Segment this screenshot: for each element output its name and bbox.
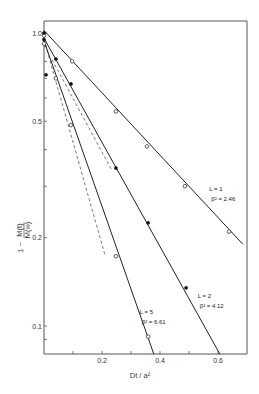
beta-label: β² = 6.61	[142, 319, 167, 325]
data-point	[54, 57, 57, 60]
data-point	[114, 254, 118, 258]
data-point	[69, 123, 73, 127]
beta-label: β² = 2.46	[211, 196, 236, 202]
x-axis-title: Dt / a²	[130, 371, 151, 380]
series-line	[44, 41, 154, 355]
x-ticks: 0.20.40.6	[73, 351, 223, 364]
data-point	[145, 145, 149, 149]
data-point	[227, 230, 231, 234]
x-tick-label: 0.2	[97, 357, 107, 364]
series-l2	[42, 38, 220, 354]
series-l1	[42, 30, 243, 244]
data-point	[183, 184, 187, 188]
data-point	[44, 73, 47, 76]
chart: 1.00.50.20.1 0.20.40.6 L = 1β² = 2.46L =…	[0, 0, 259, 394]
y-tick-label: 0.1	[32, 323, 42, 330]
y-tick-label: 1.0	[32, 30, 42, 37]
series-label: L = 5	[140, 309, 154, 315]
series-label: L = 1	[209, 186, 223, 192]
y-axis-title: 1 − M(t) M(∞)	[15, 221, 32, 252]
data-point	[54, 77, 58, 81]
data-point	[42, 42, 46, 46]
data-point	[69, 82, 72, 85]
data-point	[114, 110, 118, 114]
x-tick-label: 0.6	[213, 357, 223, 364]
series-label: L = 2	[198, 293, 212, 299]
data-point	[70, 60, 74, 64]
dashed-asymptote-line	[44, 40, 105, 255]
data-point	[42, 38, 45, 41]
y-tick-label: 0.5	[32, 118, 42, 125]
data-point	[147, 221, 150, 224]
x-tick-label: 0.4	[155, 357, 165, 364]
y-tick-label: 0.2	[32, 234, 42, 241]
annotations: L = 1β² = 2.46L = 2β² = 4.12L = 5β² = 6.…	[140, 186, 236, 325]
data-point	[146, 335, 150, 339]
y-axis-title-one: 1 −	[16, 241, 25, 252]
data-point	[185, 286, 188, 289]
data-point	[42, 31, 45, 34]
data-point	[114, 166, 117, 169]
y-axis-title-den: M(∞)	[23, 221, 32, 238]
beta-label: β² = 4.12	[200, 303, 225, 309]
dashed-lines	[44, 40, 112, 255]
dashed-asymptote-line	[52, 60, 112, 170]
